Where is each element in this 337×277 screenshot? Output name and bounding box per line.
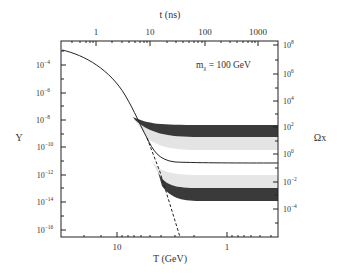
svg-text:10−4: 10−4	[283, 203, 297, 214]
svg-text:108: 108	[283, 39, 294, 50]
svg-text:106: 106	[283, 68, 294, 79]
x2-tick-1: 1	[94, 27, 99, 37]
svg-text:104: 104	[283, 95, 294, 106]
x-axis-title: T (GeV)	[153, 253, 187, 265]
top-ticks	[72, 41, 258, 46]
x2-tick-1000: 1000	[249, 27, 268, 37]
x-tick-1: 1	[225, 242, 230, 252]
mass-annotation: mχ = 100 GeV	[196, 60, 251, 71]
y-axis-title: Y	[15, 132, 22, 143]
svg-text:10−8: 10−8	[36, 114, 50, 125]
svg-text:10−2: 10−2	[283, 176, 297, 187]
svg-text:10−4: 10−4	[36, 59, 50, 70]
chart: t (ns) 1 10 100 1000 10 1 T (GeV) Y Ωx 1…	[0, 0, 337, 277]
left-ticks	[61, 51, 66, 230]
svg-text:10−6: 10−6	[36, 87, 50, 98]
x2-tick-100: 100	[198, 27, 212, 37]
svg-text:102: 102	[283, 121, 294, 132]
svg-text:10−10: 10−10	[37, 141, 54, 152]
svg-text:10−14: 10−14	[37, 196, 54, 207]
y-tick-labels: 10−4 10−6 10−8 10−10 10−12 10−14 10−16	[36, 59, 53, 235]
x2-axis-title: t (ns)	[160, 9, 181, 21]
bottom-ticks	[84, 232, 271, 237]
y2-tick-labels: 108 106 104 102 100 10−2 10−4	[283, 39, 297, 214]
x2-tick-10: 10	[146, 27, 156, 37]
svg-text:100: 100	[283, 148, 294, 159]
svg-text:10−12: 10−12	[37, 169, 54, 180]
y2-axis-title: Ωx	[314, 132, 326, 143]
svg-text:10−16: 10−16	[37, 224, 54, 235]
x-tick-10: 10	[113, 242, 123, 252]
